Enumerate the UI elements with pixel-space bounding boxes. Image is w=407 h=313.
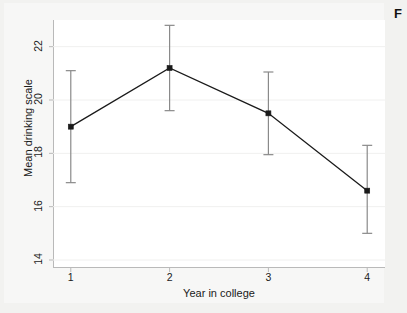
chart-canvas	[0, 0, 407, 313]
line-series	[71, 68, 367, 191]
y-tick-label: 20	[32, 88, 44, 110]
y-axis-title: Mean drinking scale	[22, 58, 34, 198]
y-tick-label: 16	[32, 195, 44, 217]
x-tick-label: 2	[159, 271, 181, 283]
figure-container: Mean drinking scale Year in college 1416…	[0, 0, 407, 313]
gridlines	[53, 47, 385, 260]
y-axis-ticks	[49, 47, 53, 260]
y-tick-label: 14	[32, 248, 44, 270]
x-tick-label: 1	[60, 271, 82, 283]
caption-fragment-text: F	[394, 6, 403, 22]
y-tick-label: 22	[32, 35, 44, 57]
data-point-markers	[68, 66, 369, 194]
x-axis-ticks	[71, 268, 367, 272]
y-tick-label: 18	[32, 141, 44, 163]
x-tick-label: 3	[257, 271, 279, 283]
x-axis-title: Year in college	[53, 287, 385, 299]
x-tick-label: 4	[356, 271, 378, 283]
error-bars	[66, 25, 372, 233]
